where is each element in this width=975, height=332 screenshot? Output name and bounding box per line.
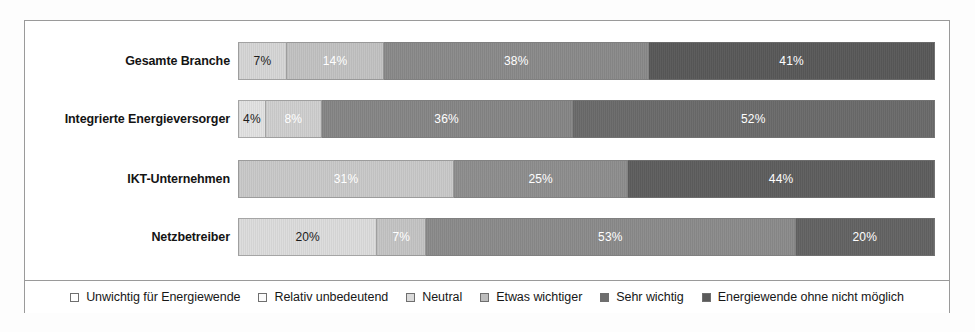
bar-segment: 53% bbox=[426, 218, 795, 256]
stacked-bar: 7%14%38%41% bbox=[238, 42, 935, 80]
segment-value-label: 4% bbox=[243, 112, 261, 126]
bar-segment: 8% bbox=[266, 100, 322, 138]
segment-value-label: 25% bbox=[528, 172, 553, 186]
plot-area: Gesamte Branche7%14%38%41%Integrierte En… bbox=[25, 21, 949, 280]
segment-value-label: 31% bbox=[334, 172, 359, 186]
bar-segment: 31% bbox=[238, 160, 454, 198]
segment-value-label: 20% bbox=[852, 230, 877, 244]
legend-item[interactable]: Relativ unbedeutend bbox=[258, 290, 388, 304]
legend-item[interactable]: Sehr wichtig bbox=[600, 290, 684, 304]
legend-label: Sehr wichtig bbox=[616, 290, 684, 304]
segment-value-label: 38% bbox=[504, 54, 529, 68]
stacked-bar: 4%8%36%52% bbox=[238, 100, 935, 138]
legend-label: Relativ unbedeutend bbox=[274, 290, 388, 304]
segment-value-label: 44% bbox=[769, 172, 794, 186]
legend-item[interactable]: Etwas wichtiger bbox=[480, 290, 582, 304]
legend-swatch-icon bbox=[406, 293, 415, 302]
legend-item[interactable]: Neutral bbox=[406, 290, 462, 304]
category-label: IKT-Unternehmen bbox=[25, 160, 230, 198]
segment-value-label: 7% bbox=[254, 54, 272, 68]
bar-segment: 38% bbox=[384, 42, 649, 80]
legend-label: Neutral bbox=[422, 290, 462, 304]
bar-segment: 20% bbox=[796, 218, 935, 256]
legend-item[interactable]: Unwichtig für Energiewende bbox=[70, 290, 240, 304]
legend-label: Unwichtig für Energiewende bbox=[86, 290, 240, 304]
chart-legend: Unwichtig für EnergiewendeRelativ unbede… bbox=[25, 280, 949, 313]
segment-value-label: 20% bbox=[295, 230, 320, 244]
stacked-bar: 31%25%44% bbox=[238, 160, 935, 198]
segment-value-label: 53% bbox=[598, 230, 623, 244]
bar-segment: 14% bbox=[287, 42, 385, 80]
bar-segment: 25% bbox=[454, 160, 628, 198]
bar-segment: 36% bbox=[322, 100, 573, 138]
bar-row: Gesamte Branche7%14%38%41% bbox=[25, 42, 949, 80]
bar-segment: 20% bbox=[238, 218, 377, 256]
legend-label: Etwas wichtiger bbox=[496, 290, 582, 304]
bar-row: IKT-Unternehmen31%25%44% bbox=[25, 160, 949, 198]
bar-segment: 44% bbox=[628, 160, 935, 198]
legend-swatch-icon bbox=[480, 293, 489, 302]
bar-segment: 7% bbox=[238, 42, 287, 80]
bar-segment: 7% bbox=[377, 218, 426, 256]
segment-value-label: 14% bbox=[323, 54, 348, 68]
legend-swatch-icon bbox=[702, 293, 711, 302]
category-label: Netzbetreiber bbox=[25, 218, 230, 256]
legend-item[interactable]: Energiewende ohne nicht möglich bbox=[702, 290, 904, 304]
segment-value-label: 36% bbox=[434, 112, 459, 126]
segment-value-label: 8% bbox=[284, 112, 302, 126]
legend-label: Energiewende ohne nicht möglich bbox=[718, 290, 904, 304]
bar-segment: 4% bbox=[238, 100, 266, 138]
legend-swatch-icon bbox=[258, 293, 267, 302]
bar-segment: 52% bbox=[573, 100, 935, 138]
segment-value-label: 7% bbox=[392, 230, 410, 244]
chart-figure: Gesamte Branche7%14%38%41%Integrierte En… bbox=[0, 0, 975, 332]
segment-value-label: 52% bbox=[741, 112, 766, 126]
segment-value-label: 41% bbox=[779, 54, 804, 68]
legend-swatch-icon bbox=[70, 293, 79, 302]
category-label: Integrierte Energieversorger bbox=[25, 100, 230, 138]
bar-row: Integrierte Energieversorger4%8%36%52% bbox=[25, 100, 949, 138]
bar-row: Netzbetreiber20%7%53%20% bbox=[25, 218, 949, 256]
stacked-bar: 20%7%53%20% bbox=[238, 218, 935, 256]
category-label: Gesamte Branche bbox=[25, 42, 230, 80]
chart-frame: Gesamte Branche7%14%38%41%Integrierte En… bbox=[24, 20, 950, 313]
bar-segment: 41% bbox=[649, 42, 935, 80]
legend-swatch-icon bbox=[600, 293, 609, 302]
